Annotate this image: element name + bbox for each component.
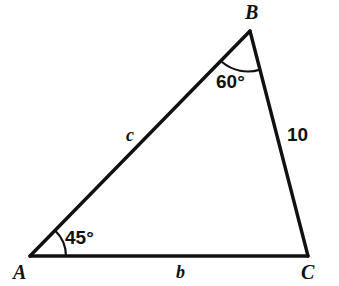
side-label-ac: b: [176, 263, 185, 281]
vertex-label-a: A: [13, 262, 26, 282]
triangle-outline: [30, 31, 308, 256]
figure-canvas: A B C c b 10 45° 60°: [0, 0, 339, 286]
segment-ab: [30, 31, 250, 256]
angle-label-a: 45°: [65, 228, 94, 247]
vertex-label-c: C: [301, 262, 314, 282]
vertex-label-b: B: [245, 2, 258, 22]
side-label-ab: c: [126, 126, 134, 144]
side-label-bc: 10: [287, 125, 308, 144]
angle-label-b: 60°: [216, 72, 245, 91]
